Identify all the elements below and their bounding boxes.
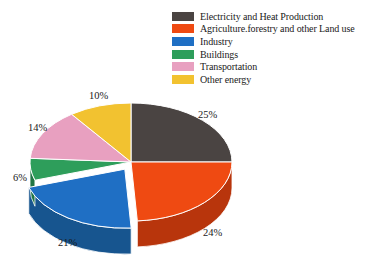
legend-item-label: Other energy bbox=[200, 74, 251, 85]
legend-item-label: Industry bbox=[200, 36, 233, 47]
legend-color-swatch bbox=[172, 62, 194, 71]
legend-item: Buildings bbox=[172, 48, 387, 61]
slice-percent-label: 24% bbox=[203, 227, 222, 238]
legend-item-label: Agriculture.forestry and other Land use bbox=[200, 23, 355, 34]
slice-percent-label: 25% bbox=[198, 109, 217, 120]
legend-item-label: Transportation bbox=[200, 61, 257, 72]
slice-percent-label: 6% bbox=[13, 172, 27, 183]
slice-percent-label: 10% bbox=[89, 90, 108, 101]
legend-item: Other energy bbox=[172, 73, 387, 86]
chart-legend: Electricity and Heat Production Agricult… bbox=[172, 10, 387, 86]
pie-svg bbox=[0, 86, 260, 267]
slice-percent-label: 21% bbox=[58, 237, 77, 248]
legend-color-swatch bbox=[172, 24, 194, 33]
legend-item: Industry bbox=[172, 35, 387, 48]
legend-item-label: Electricity and Heat Production bbox=[200, 11, 323, 22]
legend-item: Transportation bbox=[172, 60, 387, 73]
legend-item-label: Buildings bbox=[200, 49, 238, 60]
legend-color-swatch bbox=[172, 12, 194, 21]
legend-item: Agriculture.forestry and other Land use bbox=[172, 23, 387, 36]
pie-chart: Electricity and Heat Production Agricult… bbox=[0, 0, 387, 267]
legend-item: Electricity and Heat Production bbox=[172, 10, 387, 23]
slice-percent-label: 14% bbox=[28, 122, 47, 133]
legend-color-swatch bbox=[172, 75, 194, 84]
pie-graphic bbox=[0, 86, 260, 267]
legend-color-swatch bbox=[172, 37, 194, 46]
legend-color-swatch bbox=[172, 50, 194, 59]
